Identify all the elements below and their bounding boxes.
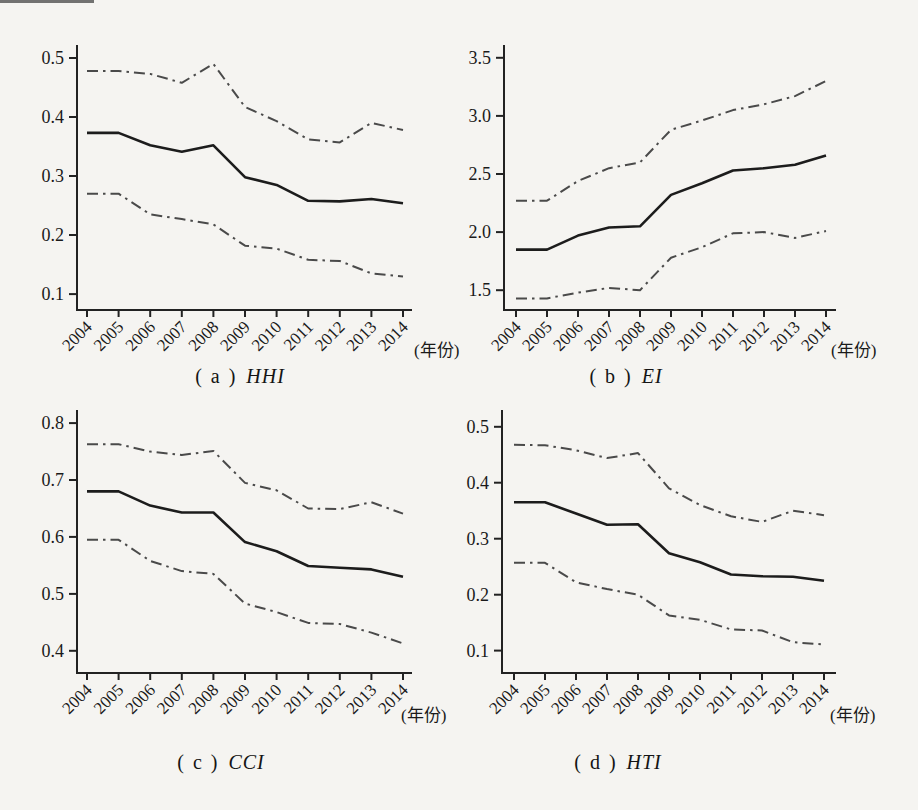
cci-lower-bound-line bbox=[87, 540, 403, 644]
y-tick-label: 1.5 bbox=[469, 280, 492, 300]
y-tick-label: 0.2 bbox=[42, 225, 65, 245]
x-tick-label: 2013 bbox=[764, 680, 801, 717]
x-tick-label: 2006 bbox=[547, 680, 584, 717]
chart-caption-cci: ( c )CCI bbox=[177, 751, 265, 774]
y-tick-label: 2.0 bbox=[469, 222, 492, 242]
x-axis-unit-label: (年份) bbox=[831, 336, 876, 361]
x-tick-label: 2010 bbox=[248, 680, 285, 717]
hti-mean-line bbox=[514, 502, 824, 580]
cci-mean-line bbox=[87, 491, 403, 576]
y-tick-label: 0.1 bbox=[42, 284, 65, 304]
x-tick-label: 2012 bbox=[733, 680, 770, 717]
y-tick-label: 2.5 bbox=[469, 164, 492, 184]
y-tick-label: 0.2 bbox=[467, 585, 490, 605]
x-tick-label: 2014 bbox=[797, 317, 835, 355]
x-tick-label: 2010 bbox=[671, 680, 708, 717]
caption-title: HHI bbox=[246, 365, 285, 387]
x-tick-label: 2010 bbox=[248, 317, 285, 354]
y-tick-label: 0.7 bbox=[42, 470, 65, 490]
y-tick-label: 0.5 bbox=[467, 417, 490, 437]
x-tick-label: 2004 bbox=[485, 680, 523, 718]
caption-index: ( a ) bbox=[195, 365, 237, 387]
y-tick-label: 0.5 bbox=[42, 584, 65, 604]
y-tick-label: 0.5 bbox=[42, 48, 65, 68]
x-tick-label: 2004 bbox=[58, 680, 96, 718]
chart-panel-hti: 0.10.20.30.40.52004200520062007200820092… bbox=[459, 405, 918, 810]
x-tick-label: 2008 bbox=[185, 680, 222, 717]
x-tick-label: 2010 bbox=[673, 317, 710, 354]
x-tick-label: 2005 bbox=[516, 680, 553, 717]
x-axis-unit-label: (年份) bbox=[401, 701, 446, 726]
x-tick-label: 2009 bbox=[642, 317, 679, 354]
chart-panel-cci: 0.40.50.60.70.82004200520062007200820092… bbox=[0, 405, 459, 810]
x-tick-label: 2008 bbox=[609, 680, 646, 717]
hhi-plot: 0.10.20.30.40.52004200520062007200820092… bbox=[0, 0, 459, 405]
scanned-figure-page: 0.10.20.30.40.52004200520062007200820092… bbox=[0, 0, 918, 810]
ei-upper-bound-line bbox=[516, 81, 826, 201]
x-tick-label: 2009 bbox=[216, 680, 253, 717]
chart-caption-hhi: ( a )HHI bbox=[195, 365, 285, 388]
hti-lower-bound-line bbox=[514, 563, 824, 645]
y-tick-label: 0.4 bbox=[42, 641, 65, 661]
x-tick-label: 2011 bbox=[280, 680, 317, 717]
x-tick-label: 2013 bbox=[343, 317, 380, 354]
y-tick-label: 3.5 bbox=[469, 48, 492, 68]
x-tick-label: 2006 bbox=[122, 317, 159, 354]
y-tick-label: 3.0 bbox=[469, 106, 492, 126]
caption-index: ( b ) bbox=[589, 365, 632, 387]
x-tick-label: 2006 bbox=[549, 317, 586, 354]
chart-panel-hhi: 0.10.20.30.40.52004200520062007200820092… bbox=[0, 0, 459, 405]
caption-title: HTI bbox=[627, 751, 662, 773]
x-tick-label: 2004 bbox=[487, 317, 525, 355]
x-tick-label: 2011 bbox=[705, 317, 742, 354]
y-tick-label: 0.1 bbox=[467, 641, 490, 661]
axes bbox=[504, 45, 836, 310]
x-tick-label: 2007 bbox=[153, 680, 191, 718]
y-tick-label: 0.3 bbox=[467, 529, 490, 549]
axes bbox=[502, 410, 836, 673]
chart-panel-ei: 1.52.02.53.03.52004200520062007200820092… bbox=[459, 0, 918, 405]
x-tick-label: 2004 bbox=[58, 317, 96, 355]
chart-caption-ei: ( b )EI bbox=[589, 365, 662, 388]
x-tick-label: 2005 bbox=[518, 317, 555, 354]
x-tick-label: 2005 bbox=[90, 317, 127, 354]
x-tick-label: 2005 bbox=[90, 680, 127, 717]
y-tick-label: 0.3 bbox=[42, 166, 65, 186]
x-tick-label: 2007 bbox=[153, 317, 191, 355]
x-tick-label: 2013 bbox=[343, 680, 380, 717]
cci-plot: 0.40.50.60.70.82004200520062007200820092… bbox=[0, 405, 459, 810]
cci-upper-bound-line bbox=[87, 444, 403, 513]
x-tick-label: 2012 bbox=[735, 317, 772, 354]
chart-caption-hti: ( d )HTI bbox=[574, 751, 662, 774]
hhi-lower-bound-line bbox=[87, 194, 403, 277]
caption-index: ( c ) bbox=[177, 751, 219, 773]
caption-title: CCI bbox=[228, 751, 264, 773]
y-tick-label: 0.4 bbox=[42, 107, 65, 127]
y-tick-label: 0.4 bbox=[467, 473, 490, 493]
x-tick-label: 2012 bbox=[311, 317, 348, 354]
y-tick-label: 0.6 bbox=[42, 527, 65, 547]
hhi-mean-line bbox=[87, 133, 403, 203]
caption-index: ( d ) bbox=[574, 751, 617, 773]
x-tick-label: 2014 bbox=[795, 680, 833, 718]
x-tick-label: 2007 bbox=[580, 317, 618, 355]
x-tick-label: 2011 bbox=[703, 680, 740, 717]
caption-title: EI bbox=[642, 365, 663, 387]
x-tick-label: 2013 bbox=[766, 317, 803, 354]
hti-upper-bound-line bbox=[514, 445, 824, 522]
x-axis-unit-label: (年份) bbox=[830, 701, 875, 726]
y-tick-label: 0.8 bbox=[42, 413, 65, 433]
x-tick-label: 2009 bbox=[216, 317, 253, 354]
x-tick-label: 2009 bbox=[640, 680, 677, 717]
x-tick-label: 2008 bbox=[185, 317, 222, 354]
hhi-upper-bound-line bbox=[87, 64, 403, 142]
x-axis-unit-label: (年份) bbox=[414, 336, 459, 361]
x-tick-label: 2012 bbox=[311, 680, 348, 717]
x-tick-label: 2007 bbox=[578, 680, 616, 718]
hti-plot: 0.10.20.30.40.52004200520062007200820092… bbox=[459, 405, 918, 810]
x-tick-label: 2011 bbox=[280, 317, 317, 354]
ei-lower-bound-line bbox=[516, 231, 826, 298]
x-tick-label: 2014 bbox=[374, 317, 412, 355]
x-tick-label: 2008 bbox=[611, 317, 648, 354]
x-tick-label: 2006 bbox=[122, 680, 159, 717]
